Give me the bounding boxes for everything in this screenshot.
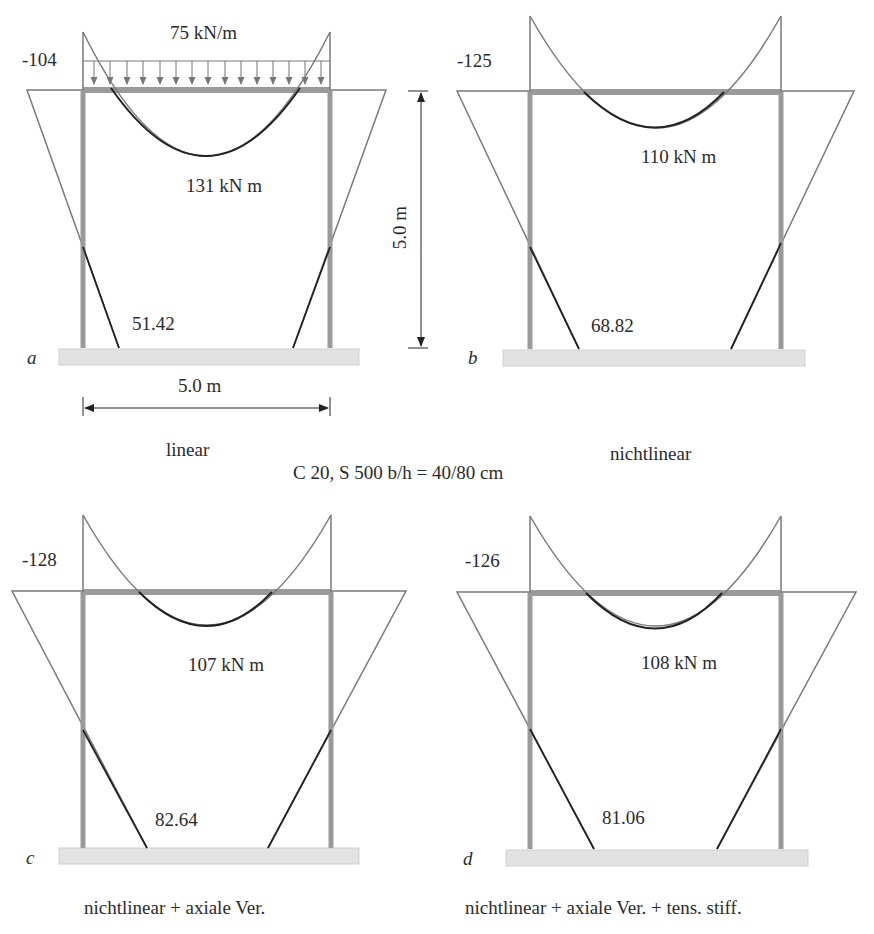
field-moment-b: 110 kN m [641, 147, 716, 166]
panel-c [12, 515, 406, 864]
base-moment-d: 81.06 [602, 808, 645, 827]
height-dimension [408, 91, 428, 348]
support-moment-c: -128 [22, 550, 57, 569]
base-moment-a: 51.42 [132, 314, 175, 333]
load-label: 75 kN/m [170, 23, 237, 42]
panel-letter-b: b [468, 348, 478, 367]
support-moment-d: -126 [465, 551, 500, 570]
caption-b: nichtlinear [610, 444, 691, 463]
caption-d: nichtlinear + axiale Ver. + tens. stiff. [465, 898, 742, 917]
base-moment-c: 82.64 [155, 810, 198, 829]
foundation-slab [506, 850, 808, 866]
field-moment-a: 131 kN m [186, 176, 262, 195]
caption-c: nichtlinear + axiale Ver. [84, 898, 265, 917]
panel-a [27, 32, 428, 416]
width-dimension-label: 5.0 m [178, 376, 221, 395]
caption-a: linear [166, 440, 209, 459]
distributed-load [83, 61, 330, 84]
support-moment-b: -125 [457, 51, 492, 70]
height-dimension-label: 5.0 m [390, 206, 409, 249]
field-moment-c: 107 kN m [188, 655, 264, 674]
foundation-slab [503, 350, 805, 366]
panel-b [457, 16, 854, 366]
field-moment-d: 108 kN m [641, 653, 717, 672]
width-dimension [83, 397, 330, 416]
panel-letter-d: d [463, 849, 473, 868]
foundation-slab [59, 848, 359, 864]
panel-d [457, 516, 856, 866]
base-moment-b: 68.82 [591, 316, 634, 335]
panel-letter-c: c [26, 848, 34, 867]
support-moment-a: -104 [22, 50, 57, 69]
panel-letter-a: a [27, 348, 37, 367]
material-spec: C 20, S 500 b/h = 40/80 cm [293, 463, 503, 482]
foundation-slab [59, 349, 359, 365]
